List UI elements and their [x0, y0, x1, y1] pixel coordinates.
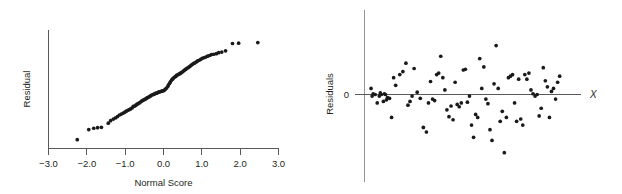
data-point [404, 61, 408, 65]
right-plot-y-tick-label-zero: 0 [344, 89, 349, 100]
data-point [256, 41, 260, 45]
data-point [476, 116, 480, 120]
data-point [379, 93, 383, 97]
data-point [500, 109, 504, 113]
data-point [521, 123, 525, 127]
data-point [443, 88, 447, 92]
data-point [392, 76, 396, 80]
data-point [390, 116, 394, 120]
data-point [453, 80, 457, 84]
data-point [484, 97, 488, 101]
data-point [546, 85, 550, 89]
data-point [513, 101, 517, 105]
data-point [220, 50, 224, 54]
data-point [100, 125, 104, 129]
data-point [496, 87, 500, 91]
data-point [511, 73, 515, 77]
data-point [96, 126, 100, 130]
data-point [375, 101, 379, 105]
data-point [468, 94, 472, 98]
data-point [412, 67, 416, 71]
data-point [539, 106, 543, 110]
data-point [433, 99, 437, 103]
data-point [457, 105, 461, 109]
data-point [550, 90, 554, 94]
data-point [401, 70, 405, 74]
data-point [554, 97, 558, 101]
data-point [519, 117, 523, 121]
data-point [478, 57, 482, 61]
data-point [398, 73, 402, 77]
data-point [486, 102, 490, 106]
right-plot-y-axis-title: Residuals [324, 73, 335, 115]
data-point [529, 88, 533, 92]
data-point [556, 80, 560, 84]
data-point [558, 74, 562, 78]
data-point [224, 49, 228, 53]
data-point [537, 114, 541, 118]
data-point [517, 77, 521, 81]
data-point [447, 115, 451, 119]
data-point [492, 82, 496, 86]
data-point [388, 96, 392, 100]
data-point [494, 44, 498, 48]
data-point [535, 93, 539, 97]
data-point [474, 113, 478, 117]
data-point [464, 67, 468, 71]
left-plot-x-ticks [49, 149, 279, 155]
data-point [427, 101, 431, 105]
left-plot-x-tick-labels: −3.0 −2.0 −1.0 0.0 1.0 2.0 3.0 [39, 158, 285, 169]
data-point [459, 101, 463, 105]
data-point [505, 116, 509, 120]
data-point [231, 42, 235, 46]
data-point [515, 119, 519, 123]
data-point [429, 80, 433, 84]
x-tick-label: 0.0 [157, 158, 170, 169]
left-plot-y-axis-title: Residual [21, 71, 32, 108]
data-point [87, 128, 91, 132]
left-plot-data-points [75, 41, 259, 142]
x-tick-label: 1.0 [195, 158, 208, 169]
data-point [437, 71, 441, 75]
data-point [548, 116, 552, 120]
data-point [237, 41, 241, 45]
data-point [92, 126, 96, 130]
data-point [441, 76, 445, 80]
data-point [449, 104, 453, 108]
x-tick-label: −1.0 [116, 158, 135, 169]
data-point [451, 118, 455, 122]
data-point [408, 100, 412, 104]
residual-plot-svg: 0 X Residuals [311, 0, 622, 194]
x-tick-label: −2.0 [77, 158, 96, 169]
data-point [384, 93, 388, 97]
figure-container: −3.0 −2.0 −1.0 0.0 1.0 2.0 3.0 Normal Sc… [0, 0, 622, 194]
data-point [425, 130, 429, 134]
data-point [498, 119, 502, 123]
data-point [541, 66, 545, 70]
data-point [369, 87, 373, 91]
left-plot-x-axis-title: Normal Score [134, 177, 192, 188]
data-point [502, 151, 506, 155]
data-point [472, 135, 476, 139]
x-tick-label: 3.0 [272, 158, 285, 169]
data-point [217, 51, 221, 55]
data-point [406, 103, 410, 107]
data-point [439, 54, 443, 58]
residual-plot-panel: 0 X Residuals [311, 0, 622, 194]
data-point [482, 65, 486, 69]
normal-probability-plot-panel: −3.0 −2.0 −1.0 0.0 1.0 2.0 3.0 Normal Sc… [0, 0, 311, 194]
data-point [480, 87, 484, 91]
data-point [394, 83, 398, 87]
data-point [525, 77, 529, 81]
data-point [466, 100, 470, 104]
data-point [422, 126, 426, 130]
data-point [523, 73, 527, 77]
right-plot-data-points [369, 44, 561, 155]
data-point [415, 90, 419, 94]
x-tick-label: 2.0 [234, 158, 247, 169]
data-point [527, 71, 531, 75]
data-point [543, 79, 547, 83]
data-point [552, 87, 556, 91]
data-point [75, 138, 79, 142]
data-point [490, 139, 494, 143]
